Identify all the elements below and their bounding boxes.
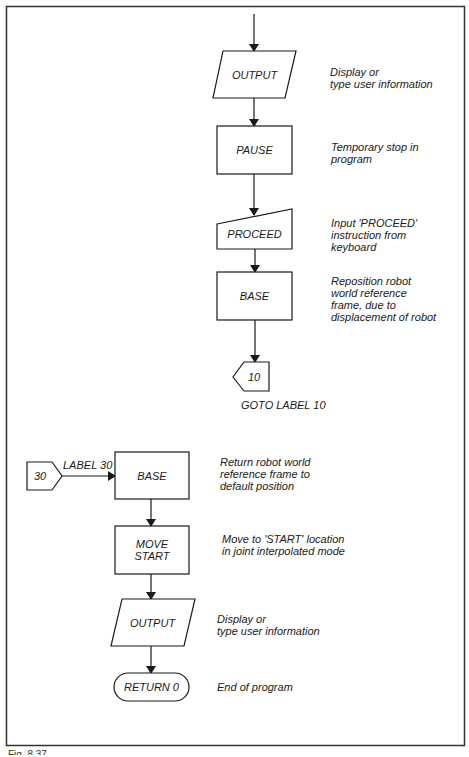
base1-annotation: Reposition robot world reference frame, … (331, 275, 436, 323)
label30-edge-label: LABEL 30 (63, 459, 112, 471)
flowchart-figure: OUTPUT PAUSE PROCEED BASE 10 30 BASE MOV… (0, 0, 469, 757)
goto10-annotation: GOTO LABEL 10 (241, 399, 326, 411)
output2-annotation: Display or type user information (217, 613, 320, 637)
base2-label: BASE (115, 452, 189, 499)
base1-label: BASE (217, 272, 292, 320)
pause-annotation: Temporary stop in program (331, 141, 419, 165)
return0-label: RETURN 0 (114, 673, 189, 701)
base2-annotation: Return robot world reference frame to de… (220, 456, 311, 492)
output1-annotation: Display or type user information (330, 66, 433, 90)
output2-label: OUTPUT (116, 599, 189, 646)
output1-label: OUTPUT (218, 51, 291, 98)
flowchart-canvas (0, 0, 469, 757)
label30-label: 30 (27, 462, 53, 490)
goto10-label: 10 (240, 362, 268, 391)
pause-label: PAUSE (217, 126, 292, 174)
movestart-annotation: Move to 'START' location in joint interp… (222, 533, 345, 557)
proceed-annotation: Input 'PROCEED' instruction from keyboar… (331, 217, 417, 253)
return0-annotation: End of program (217, 681, 293, 693)
movestart-label: MOVE START (115, 526, 189, 574)
proceed-label: PROCEED (217, 218, 292, 249)
